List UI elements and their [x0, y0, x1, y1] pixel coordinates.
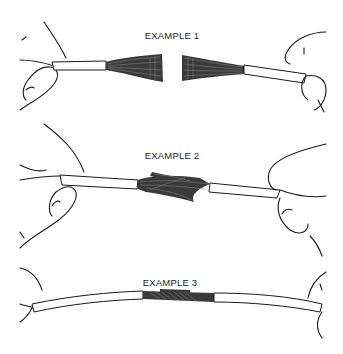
twisted-splice [143, 289, 214, 302]
splice-illustration: EXAMPLE 1 EXAMPLE 2 EXAMPLE 3 [0, 0, 343, 354]
example-1-drawing [20, 22, 326, 112]
example-3-drawing [20, 268, 326, 338]
right-strands [182, 55, 244, 81]
left-strands [106, 54, 163, 82]
interlaced-strands [138, 172, 210, 202]
illustration-drawing [0, 0, 343, 354]
example-2-drawing [20, 124, 326, 256]
